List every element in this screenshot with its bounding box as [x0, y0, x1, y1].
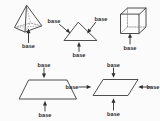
label-pyramid-base: base [22, 43, 35, 49]
pyramid-outline [15, 6, 42, 33]
trapezoid-top-leader [42, 68, 46, 78]
parallelogram-top-leader [112, 68, 116, 78]
triangle-bottom-leader [77, 42, 81, 52]
label-trapezoid-top-base: base [37, 62, 50, 68]
trapezoid-bottom-leader [43, 101, 47, 111]
label-trapezoid-bottom-base: base [38, 112, 51, 118]
triangle-left-leader [60, 25, 71, 34]
parallelogram-bottom-leader [112, 98, 116, 110]
cube-bottom-leader [128, 33, 132, 44]
label-cube-base: base [123, 45, 136, 51]
triangle-right-leader [87, 23, 95, 34]
parallelogram-outline [94, 80, 139, 96]
geometry-bases-diagram: base base base base base base base base … [0, 0, 160, 121]
cube-hidden-vertical [121, 27, 128, 34]
shape-rectangular-prism [121, 8, 147, 34]
label-parallelogram-right-base: base [146, 84, 159, 90]
parallelogram-left-leader [79, 85, 91, 89]
label-triangle-right-base: base [94, 16, 107, 22]
label-triangle-left-base: base [47, 18, 60, 24]
cube-top-face [121, 8, 147, 15]
label-parallelogram-top-base: base [107, 62, 120, 68]
shape-square-pyramid [15, 6, 42, 33]
label-parallelogram-bottom-base: base [107, 111, 120, 117]
pyramid-front-edge [25, 6, 27, 33]
label-triangle-bottom-base: base [72, 52, 85, 58]
diagram-canvas [0, 0, 160, 121]
shape-parallelogram [94, 80, 139, 96]
label-parallelogram-left-base: base [65, 84, 78, 90]
